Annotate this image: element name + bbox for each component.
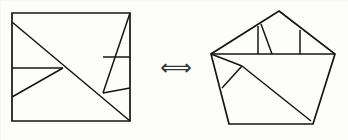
square-cut-upper-right-slant	[103, 13, 130, 93]
pentagon-cut-body-top-slant	[211, 54, 242, 66]
pentagon-cut-slant-inner	[261, 24, 272, 54]
figure-canvas: ⟺	[0, 0, 348, 140]
square-cut-lower-right-slant	[103, 88, 130, 93]
pentagon-cut-long-diagonal	[242, 66, 311, 121]
square-cut-main-diagonal	[12, 22, 130, 121]
right-shape-pentagon	[211, 11, 335, 124]
left-shape-square	[12, 13, 130, 121]
pentagon-cut-short-left-slant	[222, 66, 242, 88]
square-cut-lower-left-slant	[12, 68, 63, 97]
double-arrow-icon: ⟺	[150, 52, 202, 84]
pentagon-outline	[211, 11, 335, 124]
